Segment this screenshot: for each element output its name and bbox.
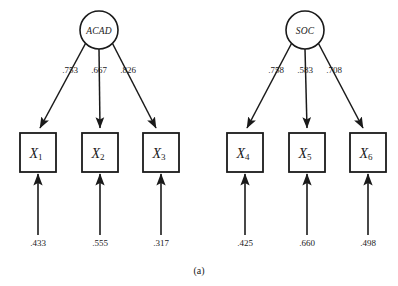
error-label-x3: .317 — [153, 238, 169, 248]
indicator-group-x5: X5 — [289, 133, 325, 172]
factor-label-soc: SOC — [296, 26, 315, 36]
loading-label-acad-x1: .753 — [62, 65, 78, 75]
loading-path-soc-x5 — [305, 49, 307, 128]
loading-path-soc-x4 — [247, 44, 292, 129]
loading-label-soc-x5: .583 — [297, 65, 313, 75]
loading-label-acad-x2: .667 — [91, 65, 107, 75]
error-label-x4: .425 — [237, 238, 253, 248]
loading-label-soc-x4: .758 — [268, 65, 284, 75]
figure-caption: (a) — [193, 265, 204, 277]
factor-group-soc: SOC — [286, 11, 324, 49]
loading-path-soc-x6 — [319, 44, 364, 129]
loading-path-acad-x1 — [40, 44, 86, 129]
indicator-group-x4: X4 — [227, 133, 263, 172]
error-label-x5: .660 — [299, 238, 315, 248]
loading-path-acad-x2 — [99, 49, 100, 128]
indicator-group-x2: X2 — [82, 133, 118, 172]
factor-label-acad: ACAD — [85, 26, 112, 36]
loading-path-acad-x3 — [113, 44, 157, 129]
diagram-canvas: ACAD .753 .667 .826 SOC .758 .583 .708 X… — [0, 0, 398, 286]
error-label-x6: .498 — [360, 238, 376, 248]
error-label-x2: .555 — [92, 238, 108, 248]
error-label-x1: .433 — [30, 238, 46, 248]
indicator-group-x3: X3 — [143, 133, 179, 172]
loading-label-soc-x6: .708 — [326, 65, 342, 75]
indicator-group-x1: X1 — [20, 133, 56, 172]
cfa-path-diagram: ACAD .753 .667 .826 SOC .758 .583 .708 X… — [0, 0, 398, 286]
factor-group-acad: ACAD — [80, 11, 118, 49]
indicator-group-x6: X6 — [350, 133, 386, 172]
loading-label-acad-x3: .826 — [120, 65, 136, 75]
